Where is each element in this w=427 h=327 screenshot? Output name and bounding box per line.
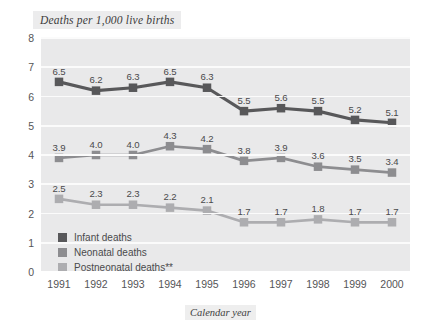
- data-point-label: 3.6: [311, 150, 324, 161]
- data-point-label: 6.3: [200, 71, 213, 82]
- data-point-label: 4.0: [89, 139, 102, 150]
- y-axis-tick-label: 4: [8, 149, 34, 161]
- data-point-marker: [203, 83, 212, 92]
- x-axis-tick-label: 1993: [112, 278, 154, 290]
- data-point-label: 1.8: [311, 203, 324, 214]
- data-point-label: 1.7: [385, 206, 398, 217]
- chart-legend: Infant deaths Neonatal deaths Postneonat…: [58, 230, 173, 275]
- data-point-label: 3.9: [274, 142, 287, 153]
- data-point-label: 2.2: [163, 191, 176, 202]
- gridline: [41, 96, 410, 98]
- data-point-marker: [240, 157, 249, 166]
- legend-label-infant-deaths: Infant deaths: [74, 232, 132, 243]
- chart-screenshot: Deaths per 1,000 live births 012345678 I…: [0, 0, 427, 327]
- data-point-marker: [314, 162, 323, 171]
- data-point-label: 2.5: [52, 183, 65, 194]
- y-axis-tick-label: 6: [8, 91, 34, 103]
- data-point-marker: [240, 218, 249, 227]
- data-point-marker: [55, 195, 64, 204]
- data-point-label: 3.9: [52, 142, 65, 153]
- x-axis-tick-label: 1999: [334, 278, 376, 290]
- y-axis-tick-label: 0: [8, 266, 34, 278]
- data-point-marker: [240, 107, 249, 116]
- gridline: [41, 125, 410, 127]
- x-axis: 1991199219931994199519961997199819992000: [41, 278, 410, 293]
- data-point-marker: [277, 104, 286, 113]
- data-point-marker: [166, 203, 175, 212]
- x-axis-tick-label: 1995: [186, 278, 228, 290]
- data-point-label: 3.8: [237, 145, 250, 156]
- data-point-label: 1.7: [348, 206, 361, 217]
- data-point-marker: [314, 215, 323, 224]
- gridline: [41, 242, 410, 244]
- series-line: [59, 199, 392, 222]
- data-point-label: 6.3: [126, 71, 139, 82]
- legend-swatch-icon-infant-deaths: [58, 233, 67, 242]
- series-line: [59, 146, 392, 172]
- x-axis-tick-label: 1991: [38, 278, 80, 290]
- data-point-label: 3.4: [385, 156, 398, 167]
- x-axis-tick-label: 1998: [297, 278, 339, 290]
- y-axis-tick-label: 5: [8, 120, 34, 132]
- x-axis-tick-label: 1994: [149, 278, 191, 290]
- data-point-label: 4.0: [126, 139, 139, 150]
- data-point-label: 5.6: [274, 92, 287, 103]
- data-point-marker: [314, 107, 323, 116]
- legend-item-neonatal-deaths: Neonatal deaths: [58, 245, 173, 259]
- data-point-marker: [55, 78, 64, 87]
- legend-swatch-icon-neonatal-deaths: [58, 248, 67, 257]
- data-point-marker: [351, 218, 360, 227]
- x-axis-title: Calendar year: [185, 305, 256, 320]
- data-point-label: 5.1: [385, 107, 398, 118]
- gridline: [41, 66, 410, 68]
- y-axis-tick-label: 8: [8, 32, 34, 44]
- y-axis-tick-label: 2: [8, 208, 34, 220]
- x-axis-baseline: [41, 271, 410, 273]
- data-point-label: 4.3: [163, 130, 176, 141]
- data-point-marker: [388, 218, 397, 227]
- data-point-marker: [388, 168, 397, 177]
- x-axis-tick-label: 2000: [371, 278, 413, 290]
- data-point-label: 4.2: [200, 133, 213, 144]
- data-point-label: 5.5: [311, 95, 324, 106]
- x-axis-tick-label: 1996: [223, 278, 265, 290]
- data-point-label: 5.5: [237, 95, 250, 106]
- data-point-label: 5.2: [348, 104, 361, 115]
- data-point-marker: [166, 142, 175, 151]
- x-axis-tick-label: 1997: [260, 278, 302, 290]
- data-point-label: 3.5: [348, 153, 361, 164]
- x-axis-tick-label: 1992: [75, 278, 117, 290]
- data-point-marker: [129, 200, 138, 209]
- series-line: [59, 82, 392, 123]
- data-point-marker: [92, 200, 101, 209]
- data-point-label: 2.1: [200, 194, 213, 205]
- plot-area: Infant deaths Neonatal deaths Postneonat…: [41, 38, 410, 272]
- data-point-marker: [277, 218, 286, 227]
- data-point-label: 6.5: [163, 66, 176, 77]
- data-point-label: 1.7: [237, 206, 250, 217]
- gridline: [41, 183, 410, 185]
- data-point-marker: [351, 116, 360, 125]
- y-axis-tick-label: 1: [8, 237, 34, 249]
- gridline: [41, 37, 410, 39]
- data-point-label: 2.3: [89, 188, 102, 199]
- data-point-marker: [92, 86, 101, 95]
- chart-title: Deaths per 1,000 live births: [33, 11, 181, 29]
- data-point-label: 6.2: [89, 74, 102, 85]
- y-axis-tick-label: 3: [8, 178, 34, 190]
- data-point-label: 6.5: [52, 66, 65, 77]
- legend-label-neonatal-deaths: Neonatal deaths: [74, 247, 147, 258]
- data-point-label: 1.7: [274, 206, 287, 217]
- y-axis-tick-label: 7: [8, 61, 34, 73]
- data-point-marker: [129, 83, 138, 92]
- data-point-marker: [166, 78, 175, 87]
- y-axis: 012345678: [7, 38, 34, 272]
- data-point-marker: [203, 145, 212, 154]
- data-point-marker: [351, 165, 360, 174]
- data-point-label: 2.3: [126, 188, 139, 199]
